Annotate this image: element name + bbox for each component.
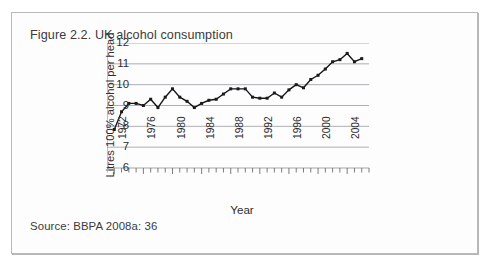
x-tick-label: 1988 bbox=[235, 116, 245, 139]
y-tick-label: 12 bbox=[107, 37, 129, 48]
y-tick-label: 11 bbox=[107, 58, 129, 69]
x-axis-minor-ticks bbox=[107, 168, 369, 174]
x-axis-title: Year bbox=[107, 203, 377, 216]
x-tick-label: 1992 bbox=[264, 116, 274, 139]
y-tick-label: 10 bbox=[107, 79, 129, 90]
y-tick-label: 9 bbox=[107, 100, 129, 111]
x-tick-label: 1980 bbox=[177, 116, 187, 139]
x-tick-label: 2000 bbox=[322, 116, 332, 139]
x-tick-label: 1972 bbox=[118, 116, 128, 139]
x-tick-label: 2004 bbox=[351, 116, 361, 139]
chart-plot: Litres 100% alcohol per head Year 121110… bbox=[107, 43, 377, 218]
page-title: Figure 2.2. UK alcohol consumption bbox=[30, 28, 233, 42]
y-tick-label: 7 bbox=[107, 141, 129, 152]
x-tick-label: 1984 bbox=[206, 116, 216, 139]
x-tick-label: 1976 bbox=[147, 116, 157, 139]
y-tick-label: 6 bbox=[107, 162, 129, 173]
x-tick-label: 1996 bbox=[293, 116, 303, 139]
chart-gridlines bbox=[107, 43, 369, 168]
figure-container: Figure 2.2. UK alcohol consumption Litre… bbox=[11, 12, 478, 254]
figure-source-caption: Source: BBPA 2008a: 36 bbox=[30, 220, 157, 232]
